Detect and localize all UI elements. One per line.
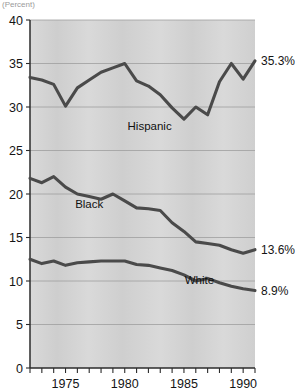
chart-container: (Percent) 0510152025303540 1975198019851… (0, 0, 295, 392)
y-axis-tick-labels: 0510152025303540 (9, 14, 23, 376)
end-value-white: 8.9% (261, 284, 289, 298)
y-tick-label-5: 5 (16, 318, 23, 332)
x-axis-tick-labels: 1975198019851990 (52, 377, 257, 391)
x-tick-label-1980: 1980 (111, 377, 139, 391)
y-tick-label-35: 35 (9, 57, 23, 71)
x-tick-label-1975: 1975 (52, 377, 80, 391)
end-value-black: 13.6% (261, 243, 295, 257)
y-tick-label-10: 10 (9, 275, 23, 289)
x-tick-label-1990: 1990 (229, 377, 257, 391)
x-tick-label-1985: 1985 (170, 377, 198, 391)
y-tick-label-20: 20 (9, 188, 23, 202)
series-end-value-labels: 35.3%13.6%8.9% (261, 54, 295, 298)
y-tick-label-0: 0 (16, 362, 23, 376)
clipped-header-text: (Percent) (2, 0, 35, 9)
y-tick-label-40: 40 (9, 14, 23, 28)
line-chart: (Percent) 0510152025303540 1975198019851… (0, 0, 295, 392)
y-tick-label-15: 15 (9, 231, 23, 245)
y-tick-label-30: 30 (9, 101, 23, 115)
series-label-black: Black (75, 198, 103, 210)
series-label-white: White (185, 274, 214, 286)
end-value-hispanic: 35.3% (261, 54, 295, 68)
y-tick-label-25: 25 (9, 144, 23, 158)
series-label-hispanic: Hispanic (128, 120, 172, 132)
